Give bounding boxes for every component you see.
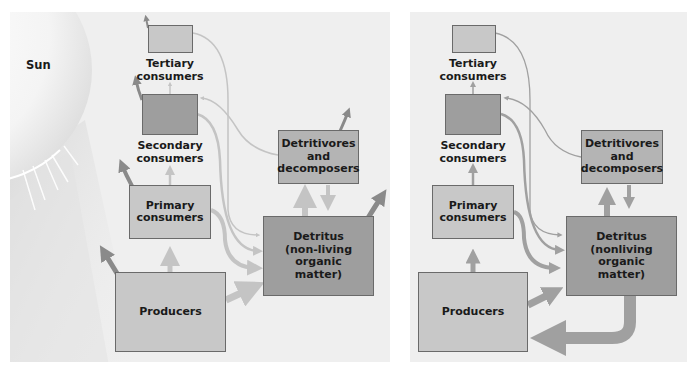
left-detritus-box: Detritus (non-living organic matter) xyxy=(263,216,374,296)
right-secondary-consumers-label: Secondary consumers xyxy=(428,140,518,165)
right-detritivores-line3: decomposers xyxy=(581,163,663,176)
left-detritivores-line3: decomposers xyxy=(277,163,359,176)
left-secondary-line1: Secondary xyxy=(125,140,215,153)
left-primary-consumers-box: Primary consumers xyxy=(129,185,211,239)
sun-label: Sun xyxy=(26,58,51,72)
left-detritivores-box: Detritivores and decomposers xyxy=(278,130,359,184)
right-detritus-line1: Detritus xyxy=(596,231,647,244)
right-tertiary-line1: Tertiary xyxy=(428,58,518,71)
right-detritivores-box: Detritivores and decomposers xyxy=(581,130,663,184)
left-tertiary-consumers-label: Tertiary consumers xyxy=(125,58,215,83)
left-producers-label: Producers xyxy=(139,306,202,319)
left-detritivores-line1: Detritivores xyxy=(281,138,355,151)
left-primary-line2: consumers xyxy=(136,212,203,225)
right-detritus-box: Detritus (nonliving organic matter) xyxy=(566,216,677,296)
left-tertiary-line2: consumers xyxy=(125,71,215,84)
right-tertiary-consumers-box xyxy=(452,25,496,53)
right-detritivores-line1: Detritivores xyxy=(585,138,659,151)
right-tertiary-line2: consumers xyxy=(428,71,518,84)
left-detritus-line2: (non-living organic xyxy=(264,244,373,269)
left-secondary-line2: consumers xyxy=(125,153,215,166)
right-primary-consumers-box: Primary consumers xyxy=(432,185,514,239)
right-secondary-line2: consumers xyxy=(428,153,518,166)
left-detritus-line1: Detritus xyxy=(293,231,344,244)
right-producers-box: Producers xyxy=(418,272,528,352)
right-tertiary-consumers-label: Tertiary consumers xyxy=(428,58,518,83)
left-tertiary-line1: Tertiary xyxy=(125,58,215,71)
flow-arrows xyxy=(0,0,693,372)
left-producers-box: Producers xyxy=(115,272,226,352)
right-producers-label: Producers xyxy=(442,306,505,319)
left-tertiary-consumers-box xyxy=(148,25,193,53)
left-secondary-consumers-label: Secondary consumers xyxy=(125,140,215,165)
right-detritus-line2: (nonliving organic xyxy=(567,244,676,269)
right-secondary-line1: Secondary xyxy=(428,140,518,153)
right-primary-line2: consumers xyxy=(439,212,506,225)
left-secondary-consumers-box xyxy=(142,94,198,135)
right-secondary-consumers-box xyxy=(445,94,501,135)
right-detritus-line3: matter) xyxy=(598,269,645,282)
left-detritus-line3: matter) xyxy=(295,269,342,282)
